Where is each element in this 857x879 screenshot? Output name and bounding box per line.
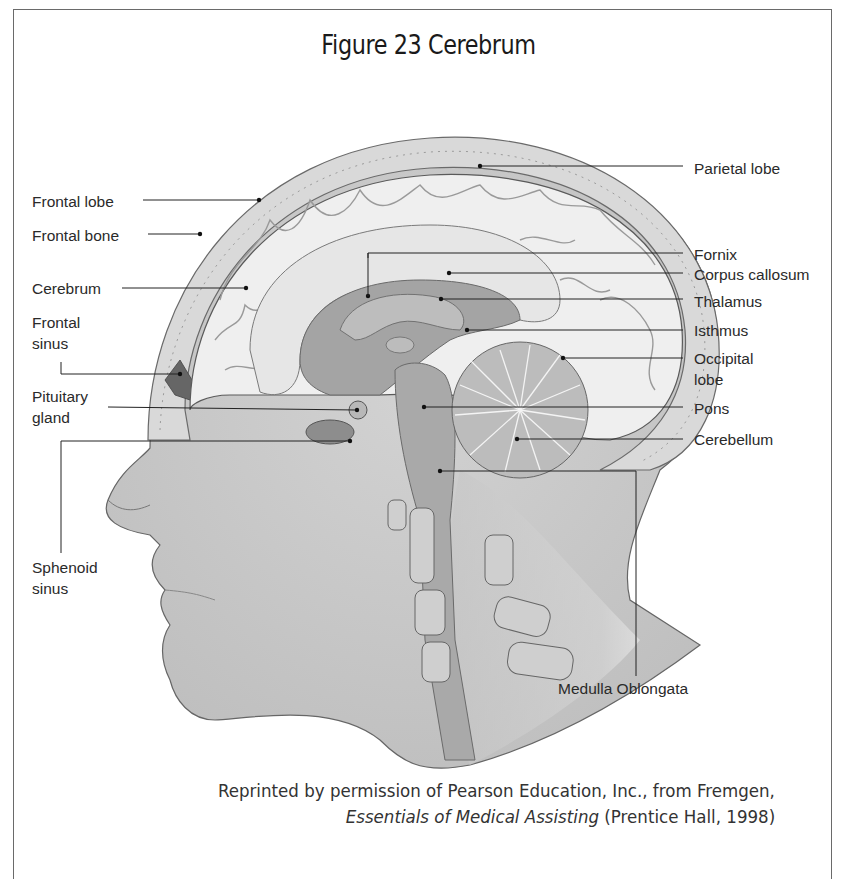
label-occipital-lobe-line2: lobe [694,370,723,389]
label-sphenoid-sinus-line2: sinus [32,579,68,598]
label-thalamus: Thalamus [694,292,762,311]
label-fornix: Fornix [694,245,737,264]
label-frontal-bone: Frontal bone [32,226,119,245]
label-parietal-lobe: Parietal lobe [694,159,780,178]
credit-publisher: (Prentice Hall, 1998) [599,806,775,827]
label-occipital-lobe-line1: Occipital [694,349,753,368]
credit-book-title: Essentials of Medical Assisting [346,806,599,827]
sphenoid-sinus-shape [306,420,354,444]
label-frontal-lobe: Frontal lobe [32,192,114,211]
label-frontal-sinus-line2: sinus [32,334,68,353]
label-frontal-sinus-line1: Frontal [32,313,80,332]
thalamus-shape [386,337,414,353]
label-sphenoid-sinus-line1: Sphenoid [32,558,98,577]
label-corpus-callosum: Corpus callosum [694,265,809,284]
label-pons: Pons [694,399,729,418]
credit-line-1: Reprinted by permission of Pearson Educa… [218,780,775,801]
label-medulla-oblongata: Medulla Oblongata [558,679,688,698]
cerebellum-shape [452,342,588,478]
label-pituitary-gland-line2: gland [32,408,70,427]
label-cerebrum: Cerebrum [32,279,101,298]
credit-line-2: Essentials of Medical Assisting (Prentic… [346,806,775,827]
label-cerebellum: Cerebellum [694,430,773,449]
label-pituitary-gland-line1: Pituitary [32,387,88,406]
label-isthmus: Isthmus [694,321,748,340]
